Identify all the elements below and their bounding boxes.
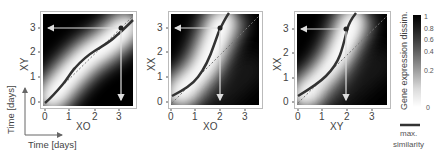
panel-2-example-point xyxy=(218,26,223,31)
panel-1-ytick: 1 xyxy=(30,72,36,82)
panel-3 xyxy=(292,12,391,112)
colorbar-tick: 0 xyxy=(426,104,430,111)
panel-3-ytick: 2 xyxy=(283,48,289,58)
panel-3-xtick: 0 xyxy=(295,112,301,122)
panel-2-xtick: 2 xyxy=(217,112,223,122)
panel-3-ytick: 0 xyxy=(283,97,289,107)
legend-label-max: max. xyxy=(400,130,417,138)
colorbar-tick: 0.2 xyxy=(424,67,434,74)
panel-1-ytick: 3 xyxy=(30,23,36,33)
panel-1-example-point xyxy=(119,26,124,31)
panel-1-xtick: 0 xyxy=(42,112,48,122)
panel-3-example-point xyxy=(344,27,349,32)
panel-1-xtick: 3 xyxy=(116,112,122,122)
panel-3-xtick: 2 xyxy=(344,112,350,122)
colorbar-tick: 1 xyxy=(424,13,428,20)
panel-2-xtick: 0 xyxy=(168,112,174,122)
panel-1-xlabel: XO xyxy=(76,122,90,132)
panel-3-ytick: 3 xyxy=(283,24,289,34)
panel-2 xyxy=(166,12,263,112)
panel-2-xtick: 3 xyxy=(242,112,248,122)
colorbar-tick: 0.6 xyxy=(424,36,434,43)
panel-3-ytick: 1 xyxy=(283,73,289,83)
panel-2-ytick: 1 xyxy=(157,72,163,82)
panel-3-xtick: 1 xyxy=(319,112,325,122)
colorbar-gradient xyxy=(413,15,421,107)
panel-2-ytick: 3 xyxy=(157,23,163,33)
panel-1-xtick: 1 xyxy=(66,112,72,122)
panel-2-ytick: 2 xyxy=(157,47,163,57)
time-key-ylabel: Time [days] xyxy=(6,85,16,134)
panel-1-ytick: 2 xyxy=(30,47,36,57)
panel-2-xtick: 1 xyxy=(192,112,198,122)
panel-1-xtick: 2 xyxy=(92,112,98,122)
panel-1 xyxy=(38,12,137,112)
panel-1-ytick: 0 xyxy=(30,97,36,107)
panel-3-xtick: 3 xyxy=(369,112,375,122)
panel-1-ylabel: XY xyxy=(20,58,30,71)
time-key-xlabel: Time [days] xyxy=(28,140,77,150)
panel-2-ytick: 0 xyxy=(157,97,163,107)
figure-canvas xyxy=(0,0,443,155)
colorbar-tick: 0.8 xyxy=(424,25,434,32)
colorbar xyxy=(413,15,421,107)
panel-2-ylabel: XX xyxy=(147,58,157,71)
panel-3-ylabel: XX xyxy=(273,58,283,71)
legend-label-similarity: similarity xyxy=(393,141,424,149)
panel-2-xlabel: XO xyxy=(203,122,217,132)
colorbar-tick: 0.4 xyxy=(424,48,434,55)
panel-3-xlabel: XY xyxy=(330,122,343,132)
colorbar-title: Gene expression dissim. xyxy=(400,11,409,110)
